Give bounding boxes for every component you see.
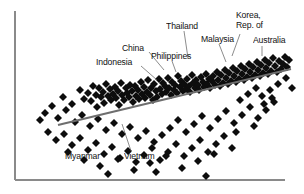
data-point [174,116,182,124]
data-point [252,84,260,92]
data-point [87,97,95,105]
leader-line-philippines [172,61,176,72]
point-label-philippines: Philippines [151,52,191,62]
data-point [96,162,104,170]
data-point [246,103,254,111]
data-point [76,134,84,142]
data-point [158,131,166,139]
data-point [60,130,68,138]
data-point [230,119,238,127]
data-point [236,96,244,104]
data-point [238,111,246,119]
data-point [110,119,118,127]
data-point [202,172,210,180]
point-label-malaysia: Malaysia [201,35,234,45]
data-point [41,109,49,117]
data-point [206,124,214,132]
data-point [102,126,110,134]
data-point [288,84,296,92]
data-point [220,132,228,140]
data-point [118,130,126,138]
data-point [178,164,186,172]
data-point [244,90,252,98]
data-point [282,74,290,82]
data-point [44,128,52,136]
data-point [108,143,116,151]
data-point [134,134,142,142]
data-point [196,136,204,144]
data-point [130,166,138,174]
data-point [258,92,266,100]
point-label-australia: Australia [253,36,285,46]
data-point [190,120,198,128]
data-point [222,107,230,115]
data-point [250,122,258,130]
data-point [115,101,123,109]
data-point [254,114,262,122]
data-point [166,124,174,132]
data-point [126,123,134,131]
data-point [232,128,240,136]
point-label-china: China [122,44,144,54]
leader-line-malaysia [219,44,226,62]
data-point [117,79,125,87]
data-point [59,93,67,101]
point-label-indonesia: Indonesia [96,58,132,68]
data-point [212,140,220,148]
data-point [48,102,56,110]
data-point [228,144,236,152]
data-point [36,116,44,124]
data-point [180,152,188,160]
point-label-korea: Korea, Rep. of [236,11,263,30]
data-point [54,114,62,122]
data-point [156,156,164,164]
data-point [198,112,206,120]
data-point [214,115,222,123]
data-point [86,122,94,130]
data-point [274,80,282,88]
data-point [194,157,202,165]
data-point [76,86,84,94]
data-point [182,128,190,136]
point-label-myanmar: Myanmar [65,152,100,162]
point-label-vietnam: Vietnam [124,152,155,162]
data-point [142,127,150,135]
data-point [68,141,76,149]
data-point [92,139,100,147]
data-point [172,140,180,148]
data-point [144,76,152,84]
data-point [68,100,76,108]
data-point [62,106,70,114]
data-point [266,86,274,94]
point-label-thailand: Thailand [166,22,198,32]
data-point [152,168,160,176]
data-point [104,170,112,178]
data-point [80,95,88,103]
data-point [93,103,101,111]
scatter-plot-figure: IndonesiaChinaPhilippinesThailandMalaysi… [0,0,304,194]
data-point [84,89,92,97]
data-point [100,150,108,158]
data-point [188,144,196,152]
data-point [52,136,60,144]
